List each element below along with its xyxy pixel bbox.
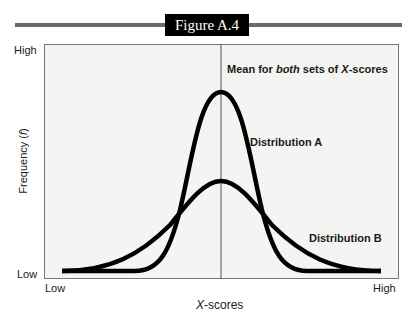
x-tick-low: Low: [45, 282, 65, 294]
y-axis-label: Frequency (f): [17, 116, 29, 206]
mean-annotation: Mean for both sets of X-scores: [227, 63, 388, 75]
x-axis-label: X-scores: [196, 298, 243, 312]
y-tick-high: High: [14, 44, 37, 56]
distribution-a-label: Distribution A: [250, 136, 322, 148]
distribution-b-label: Distribution B: [309, 232, 382, 244]
x-tick-high: High: [373, 282, 396, 294]
plot-area: [0, 0, 414, 325]
y-tick-low: Low: [17, 268, 37, 280]
